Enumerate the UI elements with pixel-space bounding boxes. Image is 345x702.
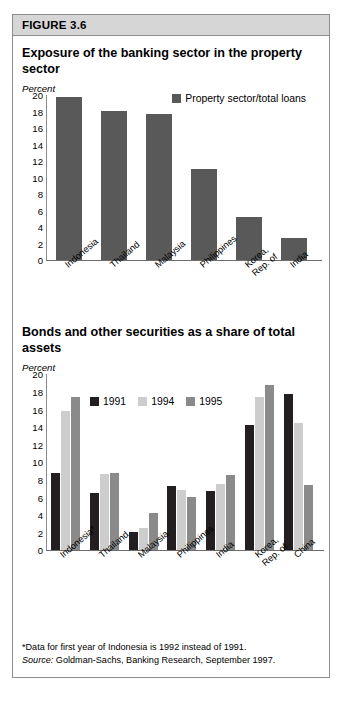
source-text: Goldman-Sachs, Banking Research, Septemb… [53,655,275,665]
bar [206,491,215,550]
bar-group [271,95,316,260]
bar-group [279,374,318,550]
legend-entry: 1995 [186,396,222,407]
y-axis-tick-label: 6 [38,492,43,503]
legend-label: 1995 [199,396,222,407]
bar [191,169,217,261]
chart-1-bars [46,95,316,260]
bar-group [136,95,181,260]
figure-source: Source: Goldman-Sachs, Banking Research,… [22,654,320,667]
y-axis-tick-label: 20 [32,90,43,101]
y-axis-tick-label: 18 [32,106,43,117]
bar [56,97,82,260]
y-axis-tick-label: 4 [38,510,43,521]
legend-swatch-icon [138,397,147,406]
y-axis-tick-label: 2 [38,527,43,538]
y-axis-tick-label: 12 [32,439,43,450]
chart-2-legend: 199119941995 [90,396,234,407]
source-prefix: Source: [22,655,53,665]
bar [255,397,264,550]
legend-label: Property sector/total loans [185,93,306,104]
y-axis-tick-label: 8 [38,475,43,486]
figure-number-label: FIGURE 3.6 [22,19,87,31]
y-axis-tick-label: 14 [32,422,43,433]
bar [146,114,172,260]
bar [101,111,127,260]
bar [177,490,186,551]
bar [51,473,60,550]
chart-2-unit-label: Percent [22,362,320,373]
y-axis-tick-label: 10 [32,457,43,468]
figure-frame: FIGURE 3.6 Exposure of the banking secto… [12,14,330,678]
legend-swatch-icon [90,397,99,406]
bar [265,385,274,550]
bar [100,474,109,551]
bar-group [181,95,226,260]
legend-label: 1991 [103,396,126,407]
figure-header: FIGURE 3.6 [13,15,329,36]
figure-footnote: *Data for first year of Indonesia is 199… [22,641,320,654]
bar [61,411,70,550]
bar-group [46,374,85,550]
panel-bonds-share: Bonds and other securities as a share of… [13,322,329,608]
chart-2-plot-area: 02468101214161820 199119941995 [22,374,320,550]
legend-entry: 1991 [90,396,126,407]
y-axis-tick-label: 6 [38,205,43,216]
bar [294,423,303,551]
figure-notes: *Data for first year of Indonesia is 199… [22,641,320,667]
y-axis-tick-label: 14 [32,139,43,150]
legend-label: 1994 [151,396,174,407]
chart-2-y-axis: 02468101214161820 [22,374,46,550]
bar [245,425,254,551]
chart-2-title: Bonds and other securities as a share of… [22,322,320,356]
panel-property-exposure: Exposure of the banking sector in the pr… [13,36,329,322]
bar-group [91,95,136,260]
bar [129,532,138,550]
bar-group [240,374,279,550]
chart-2-category-labels: Indonesia*ThailandMalaysiaPhilippinesInd… [22,550,320,608]
bar [90,493,99,550]
legend-swatch-icon [186,397,195,406]
bar [284,394,293,551]
y-axis-tick-label: 8 [38,189,43,200]
chart-1-plot-area: 02468101214161820 Property sector/total … [22,95,320,260]
y-axis-tick-label: 18 [32,387,43,398]
bar-group [46,95,91,260]
bar [216,484,225,550]
chart-1-title: Exposure of the banking sector in the pr… [22,36,320,77]
y-axis-tick-label: 2 [38,238,43,249]
chart-1-category-labels: IndonesiaThailandMalaysiaPhilippinesKore… [22,260,320,322]
legend-swatch-icon [172,94,181,103]
y-axis-tick-label: 16 [32,404,43,415]
y-axis-tick-label: 12 [32,156,43,167]
legend-entry: Property sector/total loans [172,93,306,104]
legend-entry: 1994 [138,396,174,407]
y-axis-tick-label: 20 [32,369,43,380]
y-axis-tick-label: 4 [38,222,43,233]
bar [71,397,80,550]
chart-1-legend: Property sector/total loans [172,93,318,104]
chart-1-y-axis: 02468101214161820 [22,95,46,260]
y-axis-tick-label: 10 [32,172,43,183]
y-axis-tick-label: 16 [32,123,43,134]
bar [167,486,176,550]
